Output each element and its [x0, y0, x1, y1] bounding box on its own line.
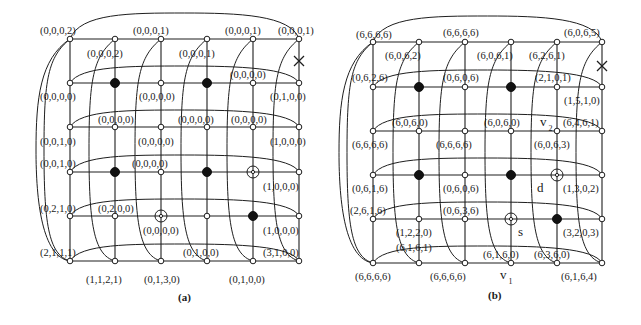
- node: [67, 36, 73, 42]
- node: [462, 260, 468, 266]
- node-vector-label: (6,0,6,1): [477, 50, 513, 62]
- node-marker-label: v1: [500, 267, 513, 286]
- faulty-node: [507, 83, 516, 92]
- node-vector-label: (6,0,6,2): [385, 50, 421, 62]
- node-vector-label: (2,1,0,1): [535, 72, 571, 84]
- column-wrap-link: [181, 39, 207, 261]
- node-vector-label: (2,6,1,6): [350, 205, 386, 217]
- node-vector-label: (0,0,0,0): [178, 114, 214, 126]
- node-vector-label: (1,2,2,0): [396, 227, 432, 239]
- node-vector-label: (0,2,0,0): [98, 203, 134, 215]
- node: [599, 172, 605, 178]
- node-vector-label: (6,6,6,6): [352, 139, 388, 151]
- node-vector-label: (6,6,6,6): [430, 271, 466, 283]
- node: [296, 124, 302, 130]
- panel-caption: (a): [178, 291, 191, 304]
- node: [370, 216, 376, 222]
- node-vector-label: (0,0,1,0): [40, 136, 76, 148]
- node-vector-label: (0,0,0,1): [133, 25, 169, 37]
- node: [416, 39, 422, 45]
- node: [599, 216, 605, 222]
- node-vector-label: (0,0,0,0): [98, 114, 134, 126]
- node: [462, 84, 468, 90]
- node-vector-label: (0,0,0,2): [40, 25, 76, 37]
- node: [67, 213, 73, 219]
- node-vector-label: (0,1,0,0): [270, 91, 306, 103]
- node-vector-label: (0,6,0,6): [443, 183, 479, 195]
- node: [554, 128, 560, 134]
- node-vector-label: (0,0,1,0): [40, 158, 76, 170]
- node-vector-label: (6,6,6,6): [443, 27, 479, 39]
- node: [554, 39, 560, 45]
- node: [250, 80, 256, 86]
- node: [112, 124, 118, 130]
- node: [67, 124, 73, 130]
- node-vector-label: (6,1,6,0): [483, 249, 519, 261]
- node-vector-label: (6,0,6,0): [392, 117, 428, 129]
- node-vector-label: (0,0,0,0): [40, 91, 76, 103]
- node-vector-label: (0,2,1,0): [40, 203, 76, 215]
- node-vector-label: (6,0,6,5): [564, 27, 600, 39]
- node-vector-label: (6,6,6,6): [356, 29, 392, 41]
- node: [204, 213, 210, 219]
- panel-b-mesh: (6,6,6,6)(6,6,6,6)(6,0,6,5)(6,0,6,2)(6,0…: [339, 16, 607, 302]
- node-vector-label: (1,1,2,1): [86, 274, 122, 286]
- node: [158, 124, 164, 130]
- node-vector-label: (6,6,6,6): [436, 139, 472, 151]
- node-vector-label: (1,0,0,0): [270, 136, 306, 148]
- faulty-node: [249, 212, 258, 221]
- node: [158, 36, 164, 42]
- node: [370, 172, 376, 178]
- node: [67, 80, 73, 86]
- panel-caption: (b): [488, 289, 502, 302]
- node: [509, 217, 512, 220]
- node: [508, 128, 514, 134]
- node-vector-label: (1,0,0,0): [263, 225, 299, 237]
- node: [296, 258, 302, 264]
- node-vector-label: (1,3,0,2): [563, 183, 599, 195]
- node-vector-label: (1,0,0,0): [263, 181, 299, 193]
- node: [599, 128, 605, 134]
- node: [370, 128, 376, 134]
- node-vector-label: (6,6,6,6): [355, 271, 391, 283]
- node: [204, 124, 210, 130]
- node-vector-label: (0,1,0,0): [229, 274, 265, 286]
- node: [599, 39, 605, 45]
- node-marker-label: v2: [540, 114, 553, 133]
- node-vector-label: (0,0,0,1): [278, 25, 314, 37]
- column-wrap-link: [485, 42, 511, 263]
- faulty-node: [415, 83, 424, 92]
- panel-a-mesh: (0,0,0,2)(0,0,0,1)(0,0,0,1)(0,0,0,1)(0,0…: [36, 13, 314, 304]
- node-vector-label: (0,1,3,0): [144, 274, 180, 286]
- node-vector-label: (0,0,0,1): [179, 48, 215, 60]
- row-wrap-link: [70, 155, 299, 172]
- node-vector-label: (0,1,0,0): [183, 247, 219, 259]
- node: [67, 169, 73, 175]
- node: [599, 260, 605, 266]
- node: [554, 84, 560, 90]
- faulty-node: [111, 79, 120, 88]
- node-vector-label: (0,0,0,0): [231, 114, 267, 126]
- faulty-node: [507, 171, 516, 180]
- node: [554, 260, 560, 266]
- node: [296, 80, 302, 86]
- faulty-node: [415, 171, 424, 180]
- node: [250, 36, 256, 42]
- node-vector-label: (6,4,6,1): [563, 117, 599, 129]
- node-vector-label: (6,1,6,1): [396, 242, 432, 254]
- node: [158, 258, 164, 264]
- node: [462, 39, 468, 45]
- node-vector-label: (0,6,2,6): [352, 72, 388, 84]
- node: [296, 213, 302, 219]
- node-vector-label: (0,0,0,1): [225, 25, 261, 37]
- node-vector-label: (3,2,0,3): [563, 227, 599, 239]
- node: [204, 36, 210, 42]
- node: [370, 39, 376, 45]
- node: [251, 170, 254, 173]
- node: [462, 128, 468, 134]
- node: [250, 258, 256, 264]
- node: [296, 36, 302, 42]
- node: [599, 84, 605, 90]
- node: [416, 216, 422, 222]
- node: [112, 258, 118, 264]
